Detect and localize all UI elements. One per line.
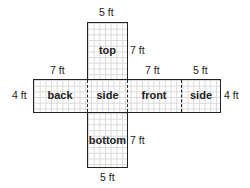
dim-top-height: 7 ft <box>130 44 145 56</box>
dim-front-width: 7 ft <box>145 64 160 76</box>
fold-line <box>88 112 127 113</box>
label-top: top <box>87 44 128 56</box>
label-bottom: bottom <box>87 134 128 146</box>
dim-right-height: 4 ft <box>224 89 239 101</box>
fold-line <box>88 79 127 80</box>
label-side-right: side <box>181 89 221 101</box>
dim-bottom-height: 7 ft <box>130 134 145 146</box>
dim-left-height: 4 ft <box>12 89 27 101</box>
dim-bottom-width: 5 ft <box>100 171 115 183</box>
label-front: front <box>127 89 181 101</box>
label-side-left: side <box>87 89 128 101</box>
label-back: back <box>33 89 87 101</box>
dim-back-width: 7 ft <box>50 64 65 76</box>
box-net-diagram: top back side front side bottom 5 ft 7 f… <box>0 0 250 188</box>
dim-top-width: 5 ft <box>99 6 114 18</box>
dim-side-width: 5 ft <box>193 64 208 76</box>
